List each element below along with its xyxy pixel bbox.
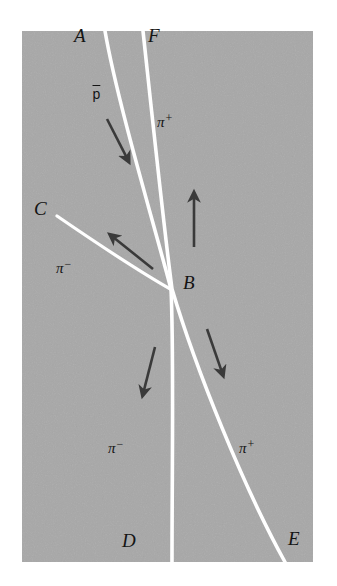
vertex-label-f: F <box>148 26 160 45</box>
particle-label-pi-plus-upper-charge: + <box>165 111 173 125</box>
particle-label-pi-minus-c: π− <box>56 258 71 276</box>
particle-label-pi-minus-d-symbol: π <box>108 440 116 456</box>
particle-label-antiproton: p <box>92 87 101 101</box>
chamber-canvas <box>0 0 337 586</box>
bubble-chamber-figure: AFCBDE pπ+π−π−π+ <box>0 0 337 586</box>
particle-label-pi-plus-e-symbol: π <box>239 440 247 456</box>
particle-label-pi-minus-d: π− <box>108 438 123 456</box>
particle-label-pi-plus-e-charge: + <box>247 437 255 451</box>
particle-label-pi-minus-c-charge: − <box>64 257 72 271</box>
particle-label-pi-plus-upper-symbol: π <box>157 114 165 130</box>
particle-label-pi-plus-upper: π+ <box>157 112 172 130</box>
particle-label-antiproton-symbol: p <box>92 86 101 102</box>
vertex-label-d: D <box>122 531 136 550</box>
vertex-label-a: A <box>74 26 86 45</box>
particle-label-pi-plus-e: π+ <box>239 438 254 456</box>
vertex-label-b: B <box>183 273 195 292</box>
particle-label-pi-minus-d-charge: − <box>116 437 124 451</box>
vertex-label-c: C <box>34 199 47 218</box>
vertex-label-e: E <box>288 529 300 548</box>
particle-label-pi-minus-c-symbol: π <box>56 260 64 276</box>
